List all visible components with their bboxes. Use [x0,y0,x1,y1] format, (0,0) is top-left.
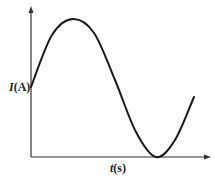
chart-canvas [0,0,215,184]
y-axis-label: I(A) [9,80,30,95]
x-axis-label: t(s) [110,161,126,176]
y-axis-arrow-icon [29,6,34,13]
sine-curve [31,19,194,157]
x-axis-arrow-icon [204,155,211,160]
